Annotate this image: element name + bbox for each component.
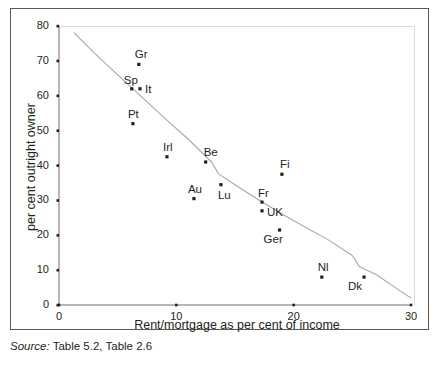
y-tick-label: 0 — [23, 299, 49, 310]
data-point-marker — [280, 173, 283, 176]
y-tick-mark — [57, 164, 60, 167]
data-point-marker — [192, 197, 195, 200]
y-tick-mark — [57, 269, 60, 272]
x-tick-mark — [175, 304, 178, 307]
source-label: Source: — [10, 340, 50, 352]
data-point-marker — [138, 87, 141, 90]
data-point-marker — [278, 228, 281, 231]
y-tick-mark — [57, 60, 60, 63]
y-axis-title: per cent outright owner — [24, 57, 38, 277]
x-tick-mark — [58, 304, 61, 307]
y-tick-mark — [57, 95, 60, 98]
y-tick-mark — [57, 234, 60, 237]
data-point-marker — [131, 122, 134, 125]
data-point-marker — [260, 201, 263, 204]
data-point-label: Nl — [318, 262, 329, 274]
data-point-label: Lu — [218, 190, 231, 202]
y-tick-mark — [57, 25, 60, 28]
data-point-label: Fi — [280, 159, 290, 171]
data-point-marker — [320, 276, 323, 279]
y-tick-mark — [57, 129, 60, 132]
data-point-label: Gr — [135, 49, 148, 61]
source-note: Source: Table 5.2, Table 2.6 — [10, 340, 152, 352]
data-point-label: Au — [188, 184, 202, 196]
data-point-marker — [137, 63, 140, 66]
data-point-label: Ger — [264, 234, 283, 246]
data-points-group — [130, 63, 366, 279]
x-axis-title: Rent/mortgage as per cent of income — [59, 318, 415, 332]
trend-curve — [74, 33, 411, 298]
source-text: Table 5.2, Table 2.6 — [53, 340, 153, 352]
data-point-label: UK — [267, 207, 283, 219]
x-tick-mark — [292, 304, 295, 307]
y-tick-mark — [57, 199, 60, 202]
data-point-marker — [165, 155, 168, 158]
y-tick-label: 80 — [23, 20, 49, 31]
data-point-marker — [260, 209, 263, 212]
data-point-marker — [130, 87, 133, 90]
data-point-marker — [219, 183, 222, 186]
data-point-label: Irl — [163, 142, 173, 154]
data-point-label: Pt — [128, 109, 139, 121]
figure-root: 010203040506070800102030 GrSpItPtIrlBeAu… — [0, 0, 440, 368]
axes-group — [59, 26, 411, 305]
data-point-label: Fr — [258, 188, 269, 200]
data-point-marker — [362, 276, 365, 279]
data-point-label: Be — [204, 147, 218, 159]
data-point-label: Sp — [124, 75, 138, 87]
data-point-label: It — [145, 84, 151, 96]
data-point-label: Dk — [348, 281, 362, 293]
trend-curve-group — [74, 33, 411, 298]
data-point-marker — [204, 160, 207, 163]
x-tick-mark — [410, 304, 413, 307]
